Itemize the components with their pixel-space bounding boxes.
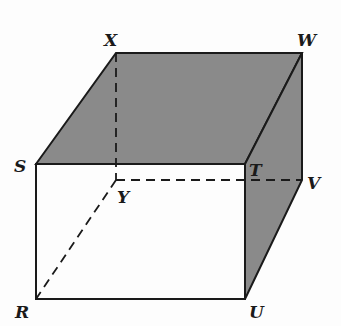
label-w: W: [297, 30, 318, 50]
front-face: [36, 164, 245, 299]
label-v: V: [307, 173, 322, 193]
label-t: T: [249, 160, 263, 180]
prism-svg: X W S T Y V R U: [0, 0, 341, 326]
prism-diagram: X W S T Y V R U: [0, 0, 341, 326]
label-s: S: [14, 156, 26, 176]
label-y: Y: [117, 187, 131, 207]
label-r: R: [14, 302, 29, 322]
label-x: X: [103, 30, 118, 50]
label-u: U: [249, 302, 265, 322]
